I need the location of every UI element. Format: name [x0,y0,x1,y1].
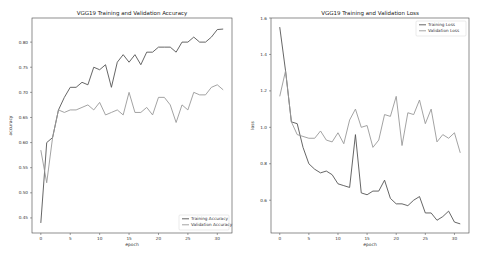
y-tick-label: 1.0 [260,125,267,130]
legend: Training AccuracyValidation Accuracy [179,215,233,230]
x-tick-label: 5 [308,236,311,241]
y-tick-label: 0.65 [19,115,29,120]
x-tick-label: 15 [364,236,370,241]
y-tick-label: 0.80 [19,40,29,45]
y-tick-label: 0.55 [19,165,29,170]
legend-label: Training Accuracy [190,216,228,221]
accuracy-chart: VGG19 Training and Validation Accuracy05… [8,10,233,247]
validation-series-line [280,71,461,153]
y-tick-label: 0.70 [19,90,29,95]
x-tick-label: 30 [452,236,458,241]
training-series-line [41,29,223,223]
training-series-line [280,27,461,224]
x-tick-label: 30 [215,236,221,241]
legend-label: Validation Loss [428,28,459,33]
y-tick-label: 0.75 [19,65,29,70]
y-tick-label: 0.60 [19,140,29,145]
y-axis-label: accuracy [8,115,13,135]
validation-series-line [41,85,223,183]
y-tick-label: 1.2 [260,88,267,93]
y-axis-label: loss [250,121,255,130]
x-tick-label: 25 [423,236,429,241]
loss-chart: VGG19 Training and Validation Loss051015… [250,10,469,247]
legend-label: Training Loss [427,22,455,27]
x-tick-label: 10 [97,236,103,241]
x-tick-label: 20 [156,236,162,241]
y-tick-label: 1.6 [260,16,267,21]
x-tick-label: 5 [69,236,72,241]
chart-title: VGG19 Training and Validation Loss [321,10,419,17]
y-tick-label: 0.50 [19,190,29,195]
chart-canvas: VGG19 Training and Validation Accuracy05… [0,0,482,257]
plot-frame [271,18,469,233]
x-axis-label: epoch [363,242,377,247]
x-axis-label: epoch [125,242,139,247]
x-tick-label: 15 [126,236,132,241]
x-tick-label: 20 [394,236,400,241]
x-tick-label: 25 [185,236,191,241]
figure: VGG19 Training and Validation Accuracy05… [0,0,482,257]
x-tick-label: 10 [335,236,341,241]
y-tick-label: 0.6 [260,198,267,203]
y-tick-label: 1.4 [260,52,267,57]
legend: Training LossValidation Loss [416,21,466,36]
chart-title: VGG19 Training and Validation Accuracy [77,10,188,17]
y-tick-label: 0.45 [19,215,29,220]
x-tick-label: 0 [278,236,281,241]
x-tick-label: 0 [39,236,42,241]
legend-label: Validation Accuracy [191,222,233,227]
y-tick-label: 0.8 [260,161,267,166]
plot-frame [32,18,232,233]
